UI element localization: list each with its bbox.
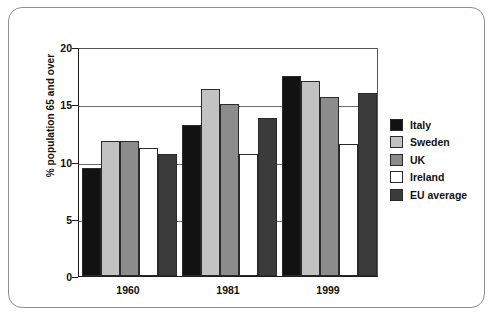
x-tick-label-1981: 1981 [188, 284, 268, 296]
legend-item-label: Italy [410, 119, 431, 131]
bar-ireland-1981 [239, 154, 258, 277]
bar-uk-1999 [320, 97, 339, 276]
y-tick-label-15: 15 [46, 100, 72, 111]
x-tick-label-1999: 1999 [288, 284, 368, 296]
legend-item-sweden[interactable]: Sweden [390, 134, 480, 152]
bar-eu-average-1981 [258, 118, 277, 276]
y-tick-label-0: 0 [46, 272, 72, 283]
x-tick-label-1960: 1960 [88, 284, 168, 296]
legend-item-label: EU average [410, 189, 467, 201]
bar-eu-average-1999 [358, 93, 377, 276]
bar-group-1999 [282, 49, 377, 276]
legend-item-uk[interactable]: UK [390, 151, 480, 169]
y-tick-label-10: 10 [46, 158, 72, 169]
y-tick-mark-0 [72, 277, 78, 278]
bar-sweden-1960 [101, 141, 120, 276]
legend-item-label: Sweden [410, 136, 450, 148]
bar-group-1981 [182, 49, 277, 276]
legend-item-label: UK [410, 154, 425, 166]
legend-swatch-icon [390, 136, 403, 148]
bar-italy-1981 [182, 125, 201, 276]
y-tick-label-20: 20 [46, 43, 72, 54]
bar-italy-1960 [82, 168, 101, 276]
legend-swatch-icon [390, 189, 403, 201]
legend-item-eu-average[interactable]: EU average [390, 186, 480, 204]
legend-item-ireland[interactable]: Ireland [390, 169, 480, 187]
bar-group-1960 [82, 49, 177, 276]
bar-italy-1999 [282, 76, 301, 276]
plot-area [78, 48, 378, 277]
bar-uk-1981 [220, 104, 239, 276]
legend-swatch-icon [390, 119, 403, 131]
legend-item-italy[interactable]: Italy [390, 116, 480, 134]
legend-item-label: Ireland [410, 171, 444, 183]
y-axis-ticks: 20 15 10 5 0 [46, 48, 72, 277]
bar-sweden-1981 [201, 89, 220, 276]
legend-swatch-icon [390, 154, 403, 166]
chart-legend: ItalySwedenUKIrelandEU average [390, 116, 480, 204]
bar-ireland-1999 [339, 144, 358, 276]
bar-uk-1960 [120, 141, 139, 276]
chart-figure: % population 65 and over 20 15 10 5 0 19… [0, 0, 495, 323]
bar-sweden-1999 [301, 81, 320, 276]
y-tick-label-5: 5 [46, 215, 72, 226]
bar-eu-average-1960 [158, 154, 177, 277]
legend-swatch-icon [390, 171, 403, 183]
bar-ireland-1960 [139, 148, 158, 276]
